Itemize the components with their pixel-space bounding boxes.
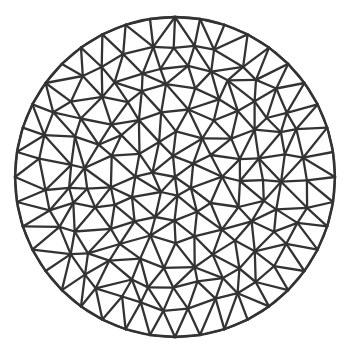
- mesh-edge: [285, 129, 297, 154]
- mesh-edge: [150, 19, 153, 47]
- mesh-edge: [223, 278, 238, 293]
- mesh-edge: [153, 47, 160, 69]
- mesh-edge: [121, 135, 139, 154]
- mesh-edge: [194, 230, 221, 237]
- mesh-edge: [71, 76, 83, 102]
- mesh-edge: [176, 243, 195, 267]
- mesh-edge: [255, 118, 267, 130]
- mesh-edge: [81, 48, 102, 67]
- mesh-edge: [123, 54, 142, 74]
- mesh-edge: [109, 259, 140, 261]
- mesh-edge: [274, 266, 304, 271]
- mesh-edge: [216, 293, 238, 298]
- mesh-edge: [211, 139, 232, 155]
- mesh-edge: [160, 48, 173, 69]
- mesh-edge: [139, 120, 159, 142]
- mesh-edge: [239, 207, 252, 221]
- mesh-edge: [159, 112, 161, 141]
- mesh-edge: [216, 278, 223, 299]
- mesh-edge: [175, 309, 188, 337]
- mesh-edge: [71, 232, 75, 255]
- mesh-edge: [75, 229, 111, 232]
- mesh-edge: [216, 299, 225, 330]
- mesh-edge: [307, 180, 333, 202]
- mesh-edge: [132, 197, 155, 217]
- mesh-edge: [255, 101, 267, 118]
- mesh-edge: [159, 142, 173, 156]
- mesh-edge: [281, 180, 307, 181]
- mesh-edge: [255, 251, 274, 266]
- mesh-edge: [141, 302, 150, 335]
- mesh-edge: [111, 187, 132, 197]
- mesh-edge: [188, 46, 194, 66]
- mesh-edge: [276, 209, 297, 223]
- mesh-edge: [243, 67, 256, 80]
- mesh-edge: [95, 187, 111, 207]
- mesh-edge: [123, 25, 125, 54]
- mesh-edge: [255, 251, 256, 282]
- mesh-edge: [111, 156, 112, 188]
- mesh-edge: [238, 111, 255, 130]
- mesh-edge: [75, 137, 84, 168]
- mesh-edge: [175, 17, 195, 46]
- mesh-edge: [85, 253, 88, 274]
- mesh-diagram: [0, 0, 349, 353]
- mesh-edge: [159, 131, 176, 142]
- mesh-edge: [23, 226, 60, 227]
- mesh-edge: [135, 221, 151, 235]
- mesh-edge: [240, 180, 263, 181]
- mesh-edge: [62, 64, 83, 76]
- mesh-edge: [128, 102, 139, 120]
- mesh-edge: [173, 156, 193, 164]
- mesh-edge: [161, 177, 175, 192]
- mesh-edge: [276, 89, 287, 113]
- mesh-edge: [161, 112, 176, 131]
- mesh-edge: [111, 229, 120, 244]
- mesh-edge: [123, 47, 153, 54]
- mesh-edge: [140, 154, 153, 173]
- mesh-edge: [111, 125, 121, 136]
- mesh-edge: [243, 34, 248, 67]
- mesh-edge: [202, 138, 210, 155]
- mesh-edge: [214, 111, 238, 121]
- mesh-edge: [46, 190, 50, 210]
- mesh-edge: [211, 155, 240, 159]
- mesh-edge: [285, 154, 303, 157]
- mesh-edge: [164, 268, 173, 288]
- mesh-edge: [161, 192, 178, 196]
- mesh-edge: [219, 80, 228, 99]
- mesh-edges: [15, 17, 335, 337]
- mesh-edge: [32, 227, 59, 250]
- mesh-edge: [132, 197, 135, 221]
- mesh-edge: [231, 139, 240, 160]
- mesh-edge: [139, 120, 140, 154]
- mesh-edge: [173, 288, 188, 309]
- mesh-edge: [135, 217, 156, 221]
- mesh-edge: [274, 232, 286, 244]
- mesh-edge: [307, 177, 335, 180]
- mesh-edge: [307, 202, 333, 208]
- mesh-edge: [174, 48, 188, 66]
- mesh-edge: [231, 111, 238, 139]
- mesh-edge: [286, 244, 304, 271]
- mesh-edge: [163, 288, 173, 311]
- mesh-edge: [195, 255, 213, 268]
- mesh-edge: [17, 152, 39, 159]
- mesh-edge: [102, 34, 123, 54]
- mesh-edge: [83, 76, 103, 97]
- mesh-edge: [96, 288, 122, 296]
- mesh-edge: [256, 80, 276, 89]
- mesh-edge: [255, 80, 256, 101]
- mesh-edge: [15, 159, 39, 177]
- mesh-edge: [71, 254, 85, 275]
- mesh-edge: [191, 164, 193, 188]
- mesh-edge: [155, 217, 174, 221]
- mesh-edge: [88, 253, 109, 260]
- mesh-edge: [142, 74, 143, 92]
- mesh-edge: [39, 159, 45, 190]
- mesh-edge: [150, 311, 163, 335]
- mesh-edge: [153, 47, 173, 48]
- mesh-edge: [53, 102, 71, 113]
- mesh-edge: [239, 269, 255, 283]
- mesh-edge: [75, 119, 81, 137]
